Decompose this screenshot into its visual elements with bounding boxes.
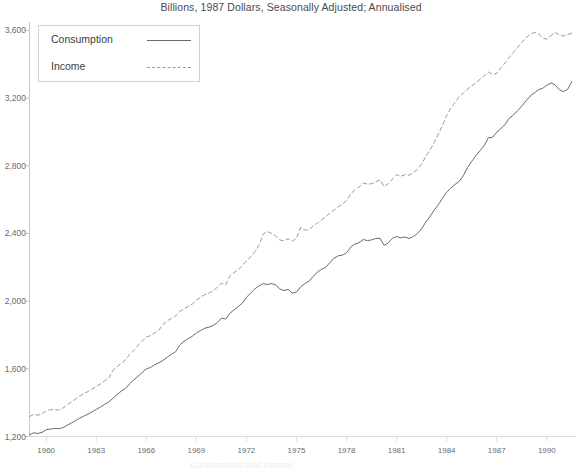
data-series-group	[30, 32, 572, 434]
y-tick-label: 2,800	[0, 161, 26, 171]
y-tick-label: 1,200	[0, 432, 26, 442]
x-tick-label: 1975	[279, 446, 313, 455]
y-tick-label: 2,000	[0, 296, 26, 306]
y-tick-label: 2,400	[0, 228, 26, 238]
y-tick-label: 1,600	[0, 364, 26, 374]
footer-partial-text: Consumption and Income	[190, 460, 390, 468]
y-tick-label: 3,600	[0, 25, 26, 35]
legend-swatch-consumption	[147, 40, 191, 41]
chart-legend: Consumption Income	[38, 25, 200, 82]
x-tick-label: 1969	[179, 446, 213, 455]
series-line-consumption	[30, 82, 572, 435]
chart-figure: Billions, 1987 Dollars, Seasonally Adjus…	[0, 0, 582, 468]
y-tick-label: 3,200	[0, 93, 26, 103]
x-tick-label: 1984	[430, 446, 464, 455]
x-tick-label: 1981	[380, 446, 414, 455]
axes	[30, 22, 577, 437]
legend-item-consumption: Consumption	[39, 30, 201, 52]
legend-swatch-income	[147, 67, 191, 68]
series-line-income	[30, 32, 572, 416]
legend-label-consumption: Consumption	[51, 33, 113, 45]
legend-label-income: Income	[51, 60, 85, 72]
x-tick-label: 1978	[330, 446, 364, 455]
x-tick-label: 1972	[229, 446, 263, 455]
x-tick-label: 1960	[29, 446, 63, 455]
legend-item-income: Income	[39, 57, 201, 79]
x-tick-label: 1987	[480, 446, 514, 455]
x-tick-label: 1990	[530, 446, 564, 455]
x-tick-label: 1966	[129, 446, 163, 455]
x-tick-marks	[46, 437, 547, 442]
x-tick-label: 1963	[79, 446, 113, 455]
